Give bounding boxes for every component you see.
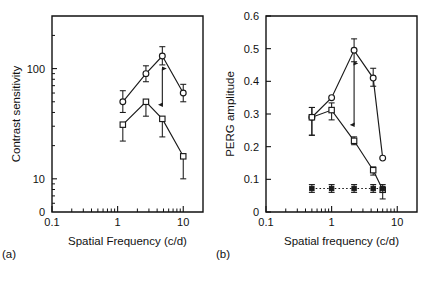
data-point-circle-b-0-1: [329, 95, 335, 101]
panel-b: 00.10.20.30.40.50.60.1110Spatial frequen…: [216, 10, 417, 260]
y-tick-label-b-6: 0.6: [244, 10, 259, 22]
data-point-square-a-1-0: [120, 122, 125, 127]
plot-frame-b: [266, 16, 417, 212]
y-tick-label-b-5: 0.5: [244, 43, 259, 55]
data-point-square-a-1-1: [143, 99, 148, 104]
x-axis-title-a: Spatial Frequency (c/d): [68, 235, 187, 247]
x-tick-label-b-1: 1: [329, 216, 335, 228]
panel-label-a: (a): [2, 248, 16, 260]
data-point-circle-b-0-4: [380, 155, 386, 161]
y-tick-label-b-2: 0.2: [244, 141, 259, 153]
data-point-circle-a-0-3: [180, 90, 186, 96]
x-tick-label-b-0: 0.1: [258, 216, 273, 228]
y-tick-label-a-0: 10: [33, 173, 45, 185]
data-point-square-b-1-1: [329, 107, 334, 112]
data-point-square-a-1-2: [160, 116, 165, 121]
series-line-b-0: [312, 50, 383, 158]
panel-label-b: (b): [216, 248, 230, 260]
x-tick-label-a-2: 10: [177, 216, 189, 228]
series-line-a-1: [123, 102, 183, 157]
data-point-square-b-1-2: [351, 138, 356, 143]
y-tick-label-b-3: 0.3: [244, 108, 259, 120]
panel-a: 1010000.1110Spatial Frequency (c/d)Contr…: [2, 16, 203, 260]
y-tick-label-a-1: 100: [27, 63, 45, 75]
data-point-circle-a-0-0: [120, 99, 126, 105]
data-point-circle-a-0-1: [143, 71, 149, 77]
x-tick-label-b-2: 10: [391, 216, 403, 228]
data-point-circle-b-0-3: [370, 75, 376, 81]
error-bar-a-1-3: [180, 156, 186, 178]
error-bar-b-1-0: [309, 107, 315, 135]
data-point-filled-square-b-2-2: [352, 186, 356, 190]
series-line-a-0: [123, 56, 183, 102]
figure-svg: 1010000.1110Spatial Frequency (c/d)Contr…: [0, 0, 427, 283]
data-point-filled-square-b-2-0: [310, 186, 314, 190]
y-tick-label-b-1: 0.1: [244, 173, 259, 185]
figure-container: 1010000.1110Spatial Frequency (c/d)Contr…: [0, 0, 427, 283]
x-tick-label-a-0: 0.1: [44, 216, 59, 228]
x-tick-label-a-1: 1: [115, 216, 121, 228]
y-axis-title-b: PERG amplitude: [224, 71, 236, 157]
data-point-filled-square-b-2-4: [380, 186, 384, 190]
data-point-square-b-1-3: [370, 167, 375, 172]
x-axis-title-b: Spatial frequency (c/d): [284, 235, 399, 247]
y-axis-title-a: Contrast sensitivity: [10, 66, 22, 163]
data-point-square-b-1-0: [309, 115, 314, 120]
series-line-b-1: [312, 110, 383, 190]
data-point-circle-a-0-2: [159, 53, 165, 59]
plot-frame-a: [52, 16, 203, 212]
data-point-filled-square-b-2-1: [329, 186, 333, 190]
data-point-square-a-1-3: [181, 154, 186, 159]
y-tick-label-b-4: 0.4: [244, 75, 259, 87]
data-point-filled-square-b-2-3: [371, 186, 375, 190]
data-point-circle-b-0-2: [351, 47, 357, 53]
